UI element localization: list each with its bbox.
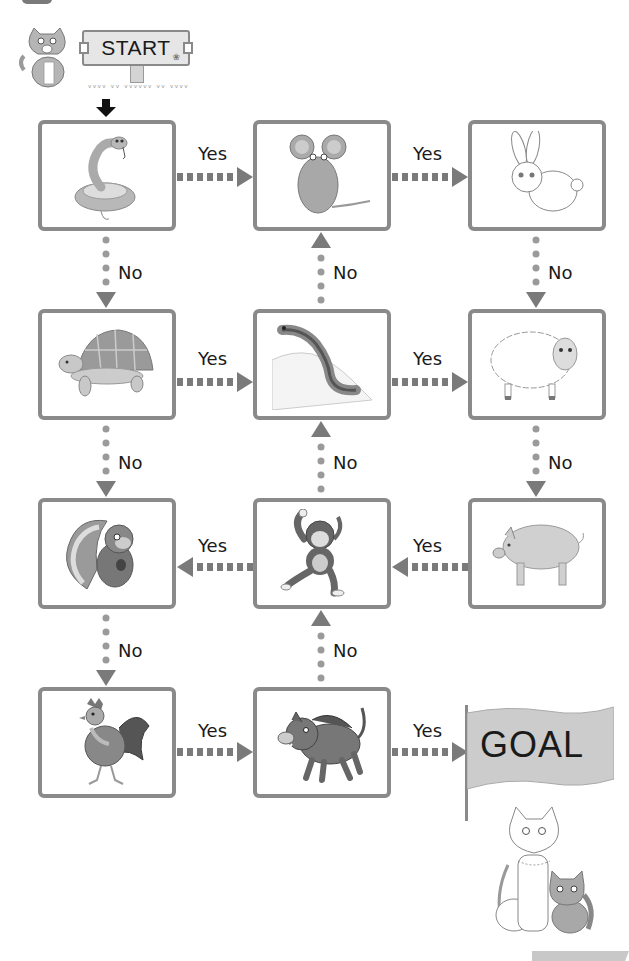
edge-label-yes: Yes (413, 720, 442, 741)
node-squirrel (38, 498, 176, 609)
no-connector-up (311, 610, 331, 686)
node-pig (468, 498, 606, 609)
goal-label: GOAL (480, 724, 584, 766)
pig-icon (487, 509, 587, 599)
edge-label-yes: Yes (413, 143, 442, 164)
node-rabbit (468, 120, 606, 231)
yes-connector-right (392, 742, 468, 762)
node-sheep (468, 309, 606, 420)
edge-label-no: No (548, 452, 572, 473)
start-label: START (101, 36, 170, 60)
edge-label-no: No (333, 452, 357, 473)
rooster-icon (57, 698, 157, 788)
node-salamander (253, 309, 391, 420)
node-monkey (253, 498, 391, 609)
no-connector-up (311, 421, 331, 497)
cat-pair-icon (488, 805, 600, 935)
yes-connector-left (392, 557, 468, 577)
edge-label-yes: Yes (198, 143, 227, 164)
edge-label-no: No (548, 262, 572, 283)
edge-label-yes: Yes (198, 348, 227, 369)
down-arrow-icon (96, 99, 116, 117)
paw-print-icon: ❀ (172, 52, 180, 62)
yes-connector-right (177, 372, 253, 392)
no-connector-up (311, 232, 331, 308)
mouse-icon (272, 131, 372, 221)
yes-connector-right (177, 742, 253, 762)
no-connector-down (96, 610, 116, 686)
edge-label-yes: Yes (198, 720, 227, 741)
sheep-icon (487, 320, 587, 410)
page-corner-tab (22, 0, 52, 4)
no-connector-down (526, 232, 546, 308)
yes-connector-right (392, 372, 468, 392)
yes-connector-right (177, 167, 253, 187)
page-corner-bar (532, 951, 629, 961)
sign-notch (79, 42, 89, 54)
boar-icon (272, 698, 372, 788)
snake-icon (57, 131, 157, 221)
edge-label-yes: Yes (413, 348, 442, 369)
monkey-icon (272, 509, 372, 599)
no-connector-down (526, 421, 546, 497)
no-connector-down (96, 421, 116, 497)
cat-icon (18, 26, 76, 88)
node-tortoise (38, 309, 176, 420)
edge-label-no: No (333, 262, 357, 283)
edge-label-no: No (333, 640, 357, 661)
edge-label-no: No (118, 262, 142, 283)
start-sign: START ❀ (82, 30, 190, 66)
tortoise-icon (57, 320, 157, 410)
yes-connector-left (177, 557, 253, 577)
salamander-icon (272, 320, 372, 410)
node-snake (38, 120, 176, 231)
rabbit-icon (487, 131, 587, 221)
node-rooster (38, 687, 176, 798)
node-mouse (253, 120, 391, 231)
edge-label-no: No (118, 640, 142, 661)
edge-label-yes: Yes (413, 535, 442, 556)
edge-label-no: No (118, 452, 142, 473)
node-boar (253, 687, 391, 798)
edge-label-yes: Yes (198, 535, 227, 556)
yes-connector-right (392, 167, 468, 187)
no-connector-down (96, 232, 116, 308)
squirrel-icon (57, 509, 157, 599)
grass-decoration: ᵥᵥᵥᵥ ᵥᵥ ᵥᵥᵥᵥᵥᵥ ᵥᵥ ᵥᵥᵥᵥ (88, 80, 189, 90)
sign-notch (183, 42, 193, 54)
